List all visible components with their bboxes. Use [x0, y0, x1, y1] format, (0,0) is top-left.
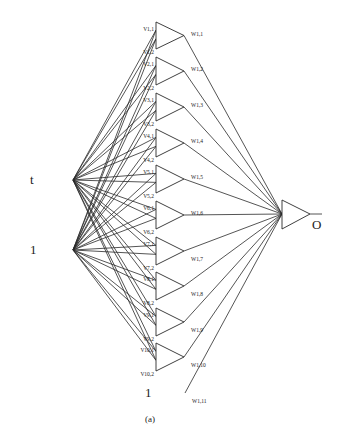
- output-connection: [184, 214, 282, 322]
- v-label: V8,1: [143, 276, 154, 282]
- w-label-bias: W1,11: [192, 398, 207, 404]
- w-label: W1,9: [191, 327, 203, 333]
- output-label: O: [312, 217, 321, 232]
- v-label: V9,1: [143, 312, 154, 318]
- v-label: V10,2: [140, 371, 154, 377]
- hidden-unit-triangle-5: [156, 165, 184, 193]
- neural-network-diagram: V1,1V1,2W1,1V2,1V2,2W1,2V3,1V3,2W1,3V4,1…: [0, 0, 347, 448]
- v-label: V2,2: [143, 85, 154, 91]
- w-label: W1,5: [191, 174, 203, 180]
- output-connection: [184, 179, 282, 214]
- w-label: W1,10: [191, 362, 206, 368]
- output-connection: [184, 36, 282, 215]
- input-1-label: 1: [30, 242, 37, 257]
- v-label: V1,1: [143, 26, 154, 32]
- v-label: V6,1: [143, 205, 154, 211]
- hidden-unit-triangle-4: [156, 129, 184, 157]
- hidden-unit-triangle-8: [156, 272, 184, 300]
- v-label: V3,1: [143, 97, 154, 103]
- w-label: W1,7: [191, 256, 203, 262]
- v-label: V5,2: [143, 193, 154, 199]
- input-connection: [73, 180, 156, 316]
- output-unit-triangle: [282, 200, 310, 229]
- v-label: V6,2: [143, 229, 154, 235]
- v-label: V4,2: [143, 157, 154, 163]
- v-label: V7,2: [143, 265, 154, 271]
- hidden-unit-triangle-1: [156, 22, 184, 49]
- v-label: V10,1: [140, 347, 154, 353]
- caption: (a): [145, 414, 155, 424]
- hidden-unit-triangle-6: [156, 201, 184, 229]
- w-label: W1,4: [191, 138, 203, 144]
- v-label: V4,1: [143, 133, 154, 139]
- v-label: V2,1: [143, 61, 154, 67]
- output-connection: [184, 214, 282, 286]
- bias-label: 1: [145, 385, 152, 400]
- hidden-unit-triangle-10: [156, 343, 184, 371]
- w-label: W1,3: [191, 102, 203, 108]
- w-label: W1,8: [191, 291, 203, 297]
- v-label: V3,2: [143, 121, 154, 127]
- w-label: W1,2: [191, 66, 203, 72]
- v-label: V5,1: [143, 169, 154, 175]
- input-t-label: t: [30, 172, 34, 187]
- hidden-unit-triangle-3: [156, 93, 184, 121]
- output-connection: [184, 214, 282, 251]
- hidden-unit-triangle-7: [156, 237, 184, 265]
- input-connection: [73, 39, 156, 250]
- hidden-unit-triangle-9: [156, 308, 184, 336]
- hidden-units: [156, 22, 184, 371]
- output-connection: [184, 214, 282, 357]
- v-label: V1,2: [143, 49, 154, 55]
- w-label: W1,6: [191, 210, 203, 216]
- v-label: V7,1: [143, 241, 154, 247]
- output-connection: [184, 107, 282, 214]
- v-label: V9,2: [143, 336, 154, 342]
- input-connection: [73, 101, 156, 180]
- w-label: W1,1: [191, 31, 203, 37]
- v-label: V8,2: [143, 300, 154, 306]
- hidden-unit-triangle-2: [156, 57, 184, 85]
- input-connection: [73, 173, 156, 250]
